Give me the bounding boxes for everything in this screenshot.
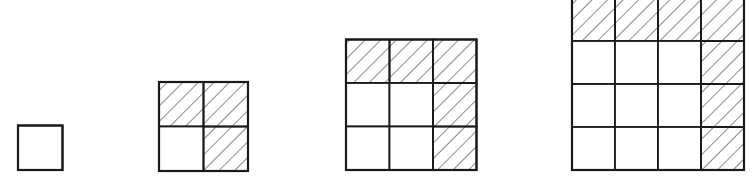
empty-cell (615, 127, 658, 170)
empty-cell (615, 84, 658, 127)
hatched-cell (615, 0, 658, 41)
hatched-cell (701, 84, 744, 127)
empty-cell (615, 41, 658, 84)
hatched-cell (701, 41, 744, 84)
hatched-cell (204, 127, 249, 172)
hatched-cell (572, 0, 615, 41)
hatched-cell (701, 127, 744, 170)
grid-figure-1 (18, 126, 63, 171)
empty-cell (658, 84, 701, 127)
empty-cell (572, 41, 615, 84)
hatched-cell (159, 82, 204, 127)
empty-cell (390, 83, 434, 127)
hatched-cell (658, 0, 701, 41)
hatched-cell (433, 83, 477, 127)
empty-cell (346, 127, 390, 171)
empty-cell (658, 127, 701, 170)
grid-figure-4 (572, 0, 744, 170)
hatched-cell (390, 40, 434, 84)
hatched-cell (701, 0, 744, 41)
hatched-cell (433, 40, 477, 84)
hatched-cell (433, 127, 477, 171)
empty-cell (572, 127, 615, 170)
grid-figure-2 (159, 82, 248, 171)
hatched-cell (204, 82, 249, 127)
empty-cell (18, 126, 63, 171)
square-numbers-diagram (0, 0, 755, 189)
grid-figure-3 (346, 40, 477, 171)
empty-cell (658, 41, 701, 84)
empty-cell (390, 127, 434, 171)
empty-cell (159, 127, 204, 172)
empty-cell (572, 84, 615, 127)
hatched-cell (346, 40, 390, 84)
empty-cell (346, 83, 390, 127)
